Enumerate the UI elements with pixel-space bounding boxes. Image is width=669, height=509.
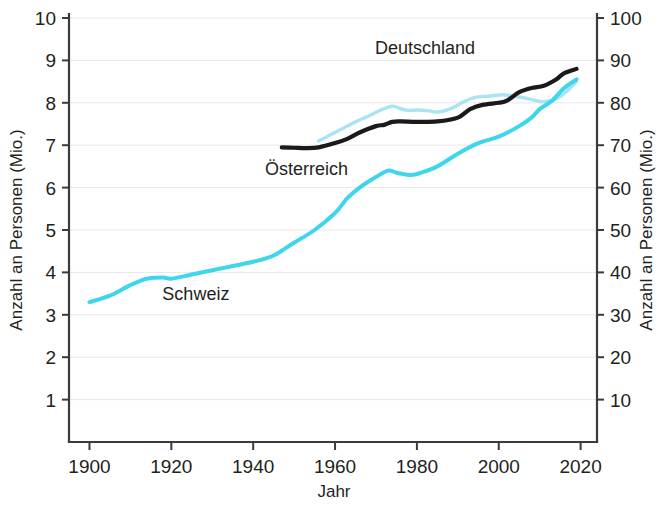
left-axis-tick-label: 6 (45, 178, 56, 199)
right-axis-tick-label: 100 (610, 8, 642, 29)
left-axis-tick-label: 2 (45, 347, 56, 368)
left-axis-tick-label: 8 (45, 93, 56, 114)
chart-canvas: 12345678910 102030405060708090100 190019… (0, 0, 669, 509)
right-axis-tick-label: 50 (610, 220, 631, 241)
x-axis-title: Jahr (317, 482, 350, 501)
right-axis-tick-label: 70 (610, 135, 631, 156)
left-axis-tick-label: 7 (45, 135, 56, 156)
x-axis-tick-label: 1980 (396, 456, 438, 477)
right-axis-tick-label: 90 (610, 50, 631, 71)
right-axis-ticks-group: 102030405060708090100 (597, 8, 642, 411)
right-axis-title: Anzahl an Personen (Mio.) (637, 129, 656, 330)
gridlines-group (69, 18, 597, 400)
right-axis-tick-label: 60 (610, 178, 631, 199)
right-axis-tick-label: 20 (610, 347, 631, 368)
right-axis-tick-label: 80 (610, 93, 631, 114)
left-axis-title: Anzahl an Personen (Mio.) (7, 129, 26, 330)
series-label-schweiz: Schweiz (162, 284, 229, 304)
right-axis-tick-label: 10 (610, 390, 631, 411)
x-axis-ticks-group: 1900192019401960198020002020 (68, 442, 601, 477)
left-axis-tick-label: 4 (45, 262, 56, 283)
series-line-schweiz (89, 79, 576, 302)
x-axis-tick-label: 2020 (559, 456, 601, 477)
left-axis-ticks-group: 12345678910 (35, 8, 69, 411)
x-axis-tick-label: 1920 (150, 456, 192, 477)
left-axis-tick-label: 10 (35, 8, 56, 29)
left-axis-tick-label: 3 (45, 305, 56, 326)
axis-spines-group (69, 14, 597, 442)
x-axis-tick-label: 2000 (478, 456, 520, 477)
series-lines-group (89, 69, 576, 302)
x-axis-tick-label: 1960 (314, 456, 356, 477)
left-axis-tick-label: 9 (45, 50, 56, 71)
right-axis-tick-label: 30 (610, 305, 631, 326)
left-axis-tick-label: 5 (45, 220, 56, 241)
x-axis-tick-label: 1900 (68, 456, 110, 477)
series-label-deutschland: Deutschland (375, 38, 475, 58)
left-axis-tick-label: 1 (45, 390, 56, 411)
series-label-osterreich: Österreich (265, 159, 348, 179)
x-axis-tick-label: 1940 (232, 456, 274, 477)
population-line-chart: 12345678910 102030405060708090100 190019… (0, 0, 669, 509)
right-axis-tick-label: 40 (610, 262, 631, 283)
